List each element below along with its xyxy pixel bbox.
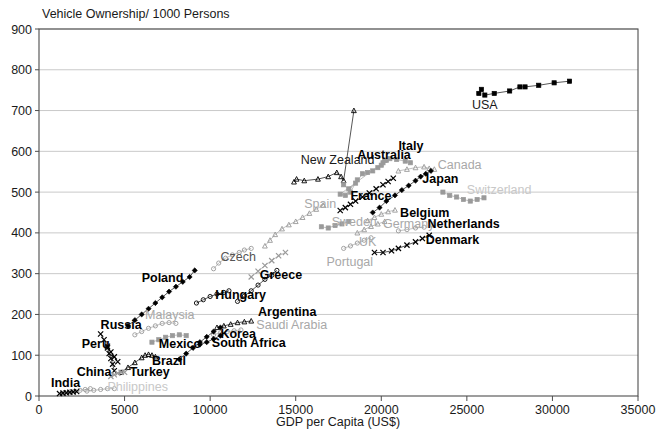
data-point xyxy=(150,340,154,344)
y-tick-label: 0 xyxy=(25,390,32,404)
x-axis-title: GDP per Capita (US$) xyxy=(276,415,400,429)
y-tick-label: 400 xyxy=(11,226,32,240)
x-tick-label: 30000 xyxy=(535,403,570,417)
data-point xyxy=(479,87,483,91)
series-label-hungary: Hungary xyxy=(215,288,266,302)
y-tick-label: 700 xyxy=(11,104,32,118)
data-point xyxy=(492,91,496,95)
data-point xyxy=(537,83,541,87)
series-label-uk: UK xyxy=(359,235,377,249)
data-point xyxy=(319,225,323,229)
series-label-russia: Russia xyxy=(101,318,143,332)
y-tick-label: 200 xyxy=(11,308,32,322)
series-label-mexico: Mexico xyxy=(159,337,202,351)
data-point xyxy=(477,91,481,95)
y-tick-label: 800 xyxy=(11,63,32,77)
series-label-portugal: Portugal xyxy=(327,255,374,269)
series-label-italy: Italy xyxy=(398,139,423,153)
x-tick-label: 5000 xyxy=(111,403,139,417)
data-point xyxy=(523,85,527,89)
series-label-poland: Poland xyxy=(142,271,184,285)
series-label-japan: Japan xyxy=(422,172,458,186)
series-label-spain: Spain xyxy=(304,197,336,211)
x-tick-label: 25000 xyxy=(449,403,484,417)
series-label-peru: Peru xyxy=(82,337,110,351)
data-point xyxy=(343,193,347,197)
series-label-czech: Czech xyxy=(220,250,255,264)
series-label-canada: Canada xyxy=(438,158,482,172)
data-point xyxy=(483,93,487,97)
series-label-greece: Greece xyxy=(260,268,302,282)
data-point xyxy=(448,193,452,197)
x-tick-label: 10000 xyxy=(193,403,228,417)
data-point xyxy=(468,199,472,203)
data-point xyxy=(518,85,522,89)
data-point xyxy=(326,226,330,230)
data-point xyxy=(342,183,346,187)
series-label-south-africa: South Africa xyxy=(212,336,287,350)
data-point xyxy=(338,192,342,196)
series-label-saudi-arabia: Saudi Arabia xyxy=(256,318,327,332)
series-label-turkey: Turkey xyxy=(130,365,170,379)
data-point xyxy=(454,195,458,199)
series-label-sweden: Sweden xyxy=(332,215,377,229)
series-label-usa: USA xyxy=(472,98,498,112)
series-label-philippines: Philippines xyxy=(107,380,167,394)
series-label-india: India xyxy=(51,376,81,390)
data-point xyxy=(461,197,465,201)
data-point xyxy=(508,89,512,93)
chart-title: Vehicle Ownership/ 1000 Persons xyxy=(42,7,230,21)
vehicle-ownership-scatter-chart: USANew ZealandAustraliaItalyCanadaJapanS… xyxy=(0,0,657,440)
data-point xyxy=(365,170,369,174)
y-tick-label: 100 xyxy=(11,349,32,363)
x-tick-label: 0 xyxy=(36,403,43,417)
series-label-netherlands: Netherlands xyxy=(427,217,499,231)
data-point xyxy=(475,197,479,201)
data-point xyxy=(567,79,571,83)
series-label-switzerland: Switzerland xyxy=(467,183,532,197)
chart-container: USANew ZealandAustraliaItalyCanadaJapanS… xyxy=(0,0,657,440)
data-point xyxy=(552,81,556,85)
data-point xyxy=(371,169,375,173)
series-label-malaysia: Malaysia xyxy=(145,308,194,322)
series-label-denmark: Denmark xyxy=(426,233,480,247)
y-tick-label: 900 xyxy=(11,23,32,37)
y-tick-label: 600 xyxy=(11,145,32,159)
series-label-china: China xyxy=(77,365,113,379)
series-label-france: France xyxy=(350,189,391,203)
y-tick-label: 300 xyxy=(11,267,32,281)
data-point xyxy=(360,172,364,176)
x-tick-label: 35000 xyxy=(621,403,656,417)
data-point xyxy=(441,190,445,194)
y-tick-label: 500 xyxy=(11,186,32,200)
data-point xyxy=(355,178,359,182)
